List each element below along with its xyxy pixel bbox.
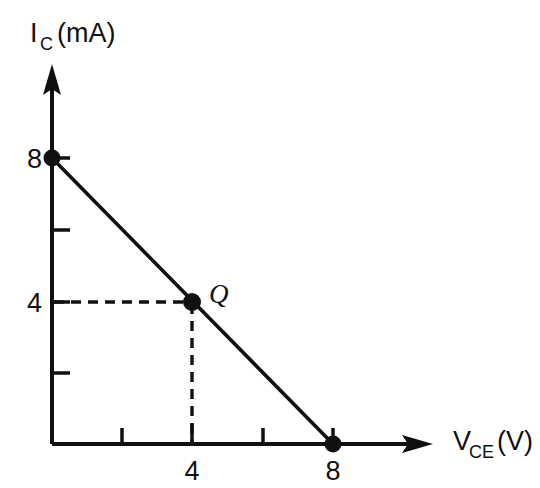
y-axis-group: 8 4 [27, 64, 70, 444]
y-axis-title-subscript: C [40, 34, 53, 54]
cutoff-point-marker [325, 436, 342, 453]
load-line-figure: 8 4 4 8 Q I C (mA) [0, 0, 540, 488]
x-tick-label-8: 8 [325, 456, 340, 486]
x-axis-title-unit: (V) [497, 426, 533, 456]
load-line-chart: 8 4 4 8 Q I C (mA) [0, 0, 540, 488]
x-tick-label-4: 4 [184, 456, 199, 486]
q-point-marker [183, 293, 201, 311]
saturation-point-marker [44, 150, 61, 167]
y-axis-title-unit: (mA) [57, 18, 115, 48]
y-tick-label-4: 4 [27, 288, 42, 318]
y-tick-label-8: 8 [27, 144, 42, 174]
x-axis-group: 4 8 [52, 424, 433, 486]
q-point-label: Q [209, 279, 229, 309]
x-axis-title: V CE (V) [453, 426, 533, 462]
y-axis-title: I C (mA) [30, 18, 115, 54]
x-axis-title-subscript: CE [469, 442, 494, 462]
y-axis-title-symbol: I [30, 18, 38, 48]
